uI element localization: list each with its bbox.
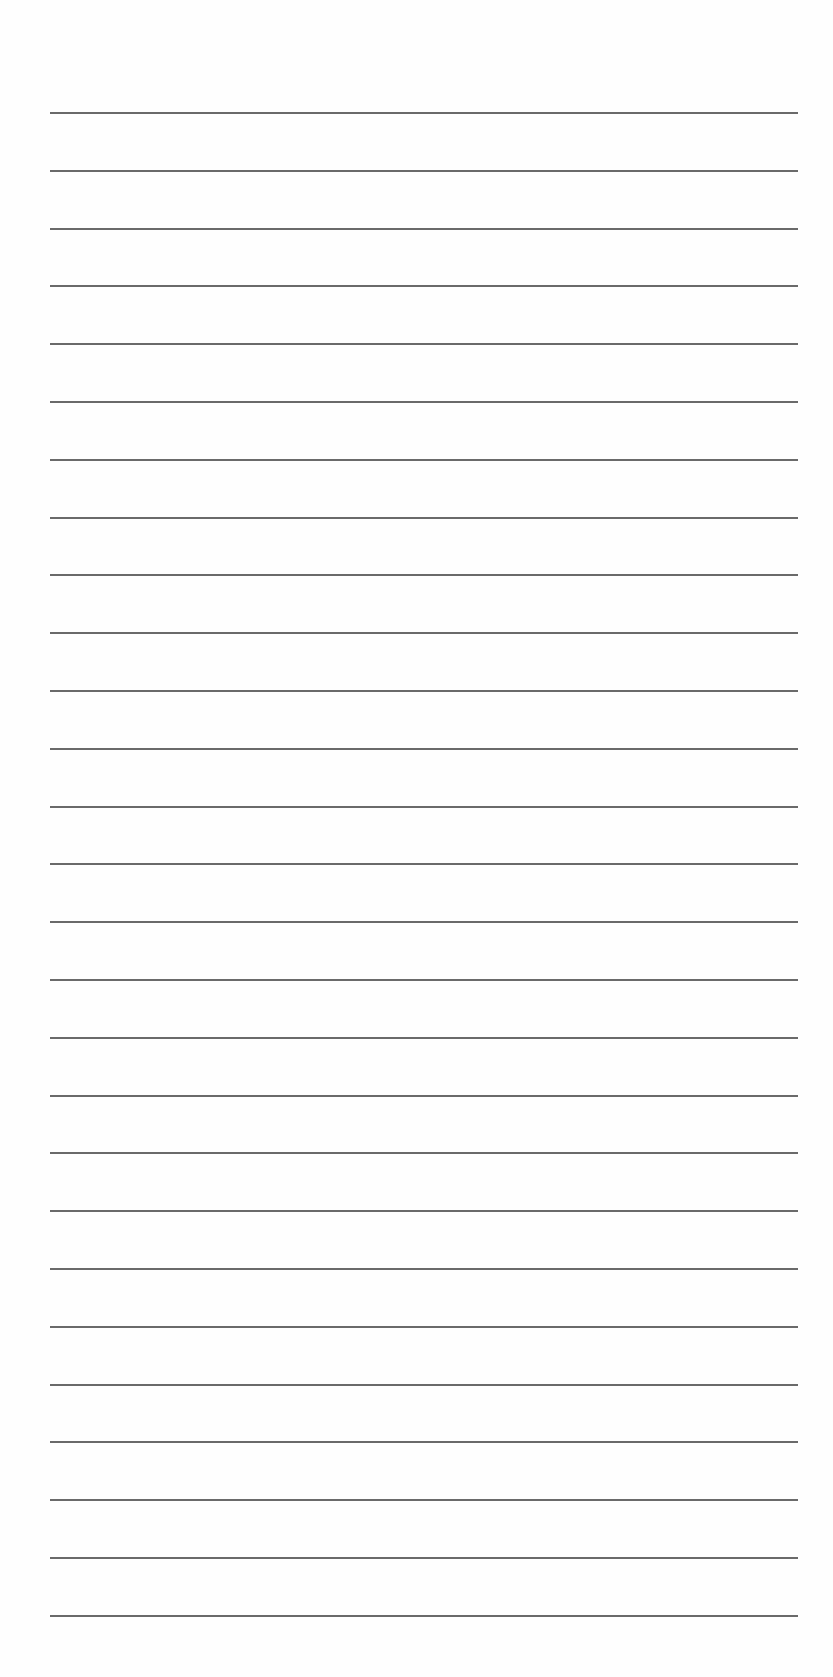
ruled-line [50,1615,798,1617]
ruled-line [50,401,798,403]
ruled-line [50,112,798,114]
ruled-line [50,459,798,461]
ruled-line [50,748,798,750]
ruled-line [50,285,798,287]
ruled-line [50,632,798,634]
ruled-line [50,574,798,576]
ruled-line [50,1095,798,1097]
ruled-line [50,343,798,345]
ruled-line [50,517,798,519]
ruled-line [50,921,798,923]
ruled-line [50,1268,798,1270]
ruled-line [50,1037,798,1039]
ruled-line [50,806,798,808]
ruled-line [50,1152,798,1154]
ruled-line [50,1326,798,1328]
ruled-line [50,690,798,692]
ruled-line [50,228,798,230]
ruled-line [50,1210,798,1212]
ruled-line [50,1384,798,1386]
ruled-line [50,979,798,981]
ruled-line [50,863,798,865]
ruled-line [50,1557,798,1559]
ruled-line [50,1499,798,1501]
ruled-line [50,170,798,172]
ruled-line [50,1441,798,1443]
lined-paper-page [0,0,833,1677]
